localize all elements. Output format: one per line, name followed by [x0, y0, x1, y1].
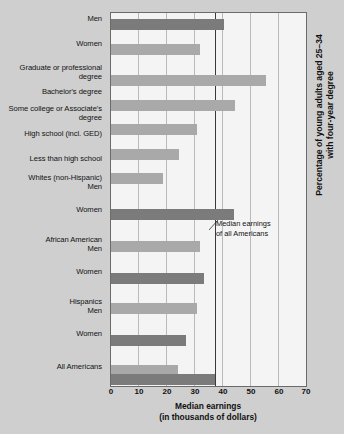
category-label: Bachelor's degree: [42, 88, 102, 97]
category-label: Women: [76, 330, 102, 339]
x-axis-ticks: 0 10 20 30 40 50 60 70: [110, 387, 306, 399]
x-tick: 20: [163, 387, 172, 396]
category-label: Women: [76, 206, 102, 215]
median-earnings-annotation: Median earnings of all Americans: [216, 219, 304, 238]
bar-all-americans-final: [111, 374, 215, 385]
category-label: Some college or Associate's degree: [9, 105, 102, 122]
bar-some-college: [111, 124, 197, 135]
gridline: [194, 13, 195, 386]
gridline: [138, 13, 139, 386]
category-label: Less than high school: [30, 155, 102, 164]
plot-area: [110, 12, 307, 387]
x-tick: 0: [109, 387, 113, 396]
category-label: Men: [87, 15, 102, 24]
category-label: African American Men: [45, 236, 102, 253]
x-tick: 30: [191, 387, 200, 396]
bar-men: [111, 19, 224, 30]
bar-african-american-women: [111, 303, 197, 314]
category-label: Graduate or professional degree: [20, 64, 102, 81]
chart-figure: Men Women Graduate or professional degre…: [0, 0, 344, 434]
bar-bachelors-degree: [111, 100, 235, 111]
gridline: [222, 13, 223, 386]
bar-graduate-degree: [111, 75, 266, 86]
x-tick: 50: [247, 387, 256, 396]
x-tick: 60: [275, 387, 284, 396]
gridline: [250, 13, 251, 386]
gridline: [166, 13, 167, 386]
bar-hispanics-men: [111, 335, 186, 346]
x-tick: 10: [135, 387, 144, 396]
x-tick: 40: [219, 387, 228, 396]
x-tick: 70: [302, 387, 311, 396]
category-label: All Americans: [57, 363, 102, 372]
bar-less-than-high-school: [111, 173, 163, 184]
bar-women: [111, 44, 200, 55]
bar-high-school: [111, 149, 179, 160]
category-label: Whites (non-Hispanic) Men: [28, 174, 102, 191]
bar-african-american-men: [111, 273, 204, 284]
category-label: High school (incl. GED): [24, 130, 102, 139]
category-label: Hispanics Men: [70, 298, 102, 315]
x-axis-title: Median earnings (in thousands of dollars…: [110, 401, 306, 423]
category-label: Women: [76, 268, 102, 277]
right-axis-title-text: Percentage of young adults aged 25–34 wi…: [314, 15, 336, 215]
bar-whites-women: [111, 241, 200, 252]
median-reference-line: [215, 13, 216, 386]
right-axis-title: Percentage of young adults aged 25–34 wi…: [306, 10, 344, 220]
category-label: Women: [76, 40, 102, 49]
category-label-column: Men Women Graduate or professional degre…: [0, 0, 106, 385]
gridline: [278, 13, 279, 386]
